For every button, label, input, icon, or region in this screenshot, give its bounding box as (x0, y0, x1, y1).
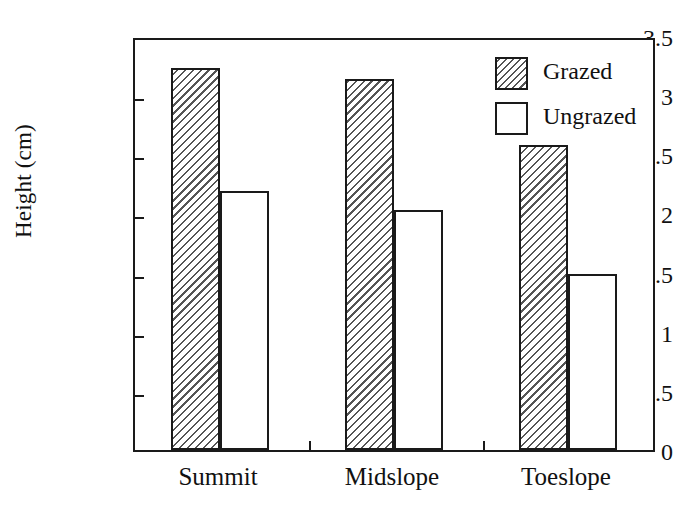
y-axis-tick-mark (135, 217, 144, 219)
bar-midslope-ungrazed (394, 210, 443, 450)
legend-item-grazed: Grazed (495, 57, 670, 102)
y-axis-tick-mark (135, 336, 144, 338)
legend-swatch-grazed (495, 57, 528, 90)
plot-area: GrazedUngrazed (133, 38, 655, 452)
x-axis-label-midslope: Midslope (345, 463, 439, 491)
chart-legend: GrazedUngrazed (495, 57, 670, 147)
y-axis-tick-mark (135, 395, 144, 397)
y-axis-tick-mark (135, 158, 144, 160)
bar-summit-grazed (171, 68, 220, 450)
chart-figure: Height (cm) 00.511.522.533.5 GrazedUngra… (0, 0, 685, 522)
bar-summit-ungrazed (220, 191, 269, 450)
y-axis-title: Height (cm) (11, 81, 37, 281)
legend-swatch-ungrazed (495, 102, 528, 135)
legend-label-grazed: Grazed (543, 58, 612, 85)
y-axis-tick-mark (135, 277, 144, 279)
x-axis-tick-mark (309, 441, 311, 450)
legend-label-ungrazed: Ungrazed (543, 103, 636, 130)
x-axis-label-toeslope: Toeslope (521, 463, 611, 491)
y-axis-tick-mark (135, 99, 144, 101)
bar-toeslope-ungrazed (568, 274, 617, 450)
bar-toeslope-grazed (519, 145, 568, 450)
legend-item-ungrazed: Ungrazed (495, 102, 670, 147)
x-axis-tick-mark (483, 441, 485, 450)
x-axis-label-summit: Summit (178, 463, 257, 491)
bar-midslope-grazed (345, 79, 394, 450)
